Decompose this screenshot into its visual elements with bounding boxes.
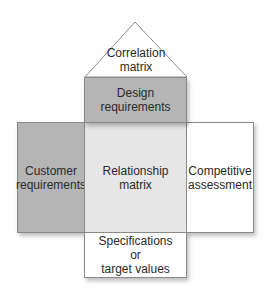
correlation-matrix-text: Correlation matrix	[95, 44, 177, 76]
correlation-matrix-label: Correlation matrix	[107, 46, 166, 74]
